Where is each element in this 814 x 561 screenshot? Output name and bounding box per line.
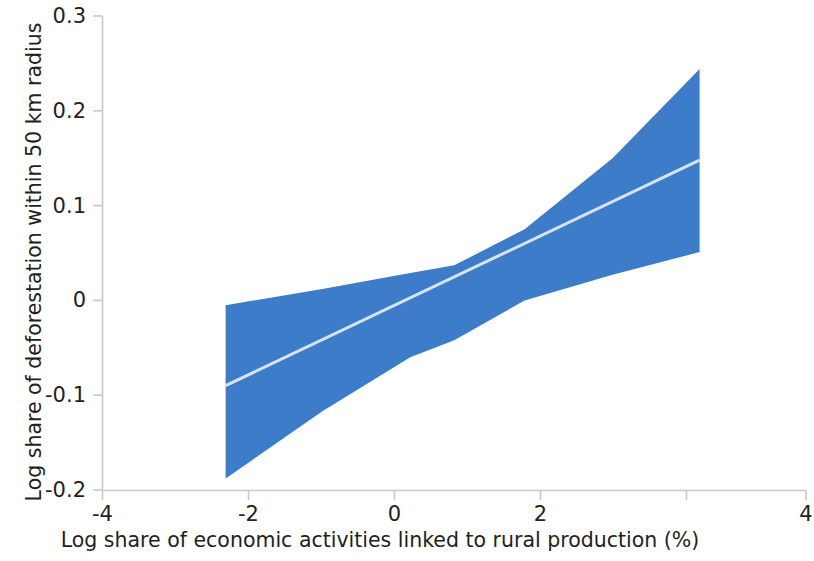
x-axis-title: Log share of economic activities linked … (0, 528, 760, 552)
x-tick-label-3: 2 (511, 502, 571, 526)
x-tick-label-0: -4 (73, 502, 133, 526)
x-tick-label-4: 4 (776, 502, 814, 526)
chart-plot-area (0, 0, 814, 561)
x-tick-label-1: -2 (219, 502, 279, 526)
y-axis-ticks (93, 16, 103, 490)
fitted-regression-line (226, 160, 700, 386)
x-tick-label-2: 0 (365, 502, 425, 526)
chart-figure: 0.3 0.2 0.1 0 -0.1 -0.2 -4 -2 0 2 4 Log … (0, 0, 814, 561)
x-axis-ticks (103, 491, 807, 501)
y-axis-title: Log share of deforestation within 50 km … (22, 12, 46, 512)
